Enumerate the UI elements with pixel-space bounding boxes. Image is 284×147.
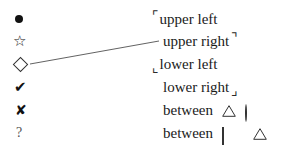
legend-row: ✔ lower right ⌟	[0, 76, 284, 98]
rectangle-outline-icon	[222, 128, 244, 140]
symbol-cell	[14, 8, 48, 30]
legend-label: upper right	[163, 33, 229, 50]
diamond-outline-symbol	[13, 56, 29, 72]
triangle-outline-icon	[222, 105, 236, 117]
label-cell: ⌞ lower left	[152, 53, 217, 75]
symbol-cell: ?	[14, 122, 48, 144]
corner-bracket-lower-left-icon: ⌞	[152, 59, 159, 75]
label-cell: between	[152, 122, 267, 144]
legend-label: lower left	[160, 56, 218, 73]
legend-label: between	[163, 125, 213, 142]
symbol-cell: ✘	[14, 99, 48, 121]
corner-bracket-upper-right-icon: ⌝	[231, 30, 238, 46]
legend-row: ⌜ upper left	[0, 8, 284, 30]
star-outline-symbol: ☆	[13, 34, 26, 49]
legend-row: ☆ upper right ⌝	[0, 30, 284, 52]
check-mark-symbol: ✔	[14, 80, 27, 95]
legend-row: ✘ between	[0, 99, 284, 121]
label-cell: between	[152, 99, 258, 121]
filled-circle-symbol	[15, 15, 23, 23]
symbol-cell	[14, 53, 48, 75]
corner-bracket-upper-left-icon: ⌜	[152, 8, 159, 24]
legend-row: ⌞ lower left	[0, 53, 284, 75]
ballot-x-symbol: ✘	[15, 103, 27, 117]
legend-label: between	[163, 102, 213, 119]
corner-bracket-lower-right-icon: ⌟	[231, 82, 238, 98]
label-cell: ⌜ upper left	[152, 8, 217, 30]
symbol-legend-figure: ⌜ upper left ☆ upper right ⌝ ⌞ lower lef…	[0, 0, 284, 147]
label-cell: lower right ⌟	[152, 76, 238, 98]
question-mark-symbol: ?	[16, 126, 22, 140]
legend-label: upper left	[160, 11, 218, 28]
symbol-cell: ✔	[14, 76, 48, 98]
label-cell: upper right ⌝	[152, 30, 238, 52]
legend-row: ? between	[0, 122, 284, 144]
legend-label: lower right	[163, 79, 229, 96]
circle-outline-icon	[245, 105, 258, 118]
triangle-outline-icon	[253, 128, 267, 140]
symbol-cell: ☆	[14, 30, 48, 52]
